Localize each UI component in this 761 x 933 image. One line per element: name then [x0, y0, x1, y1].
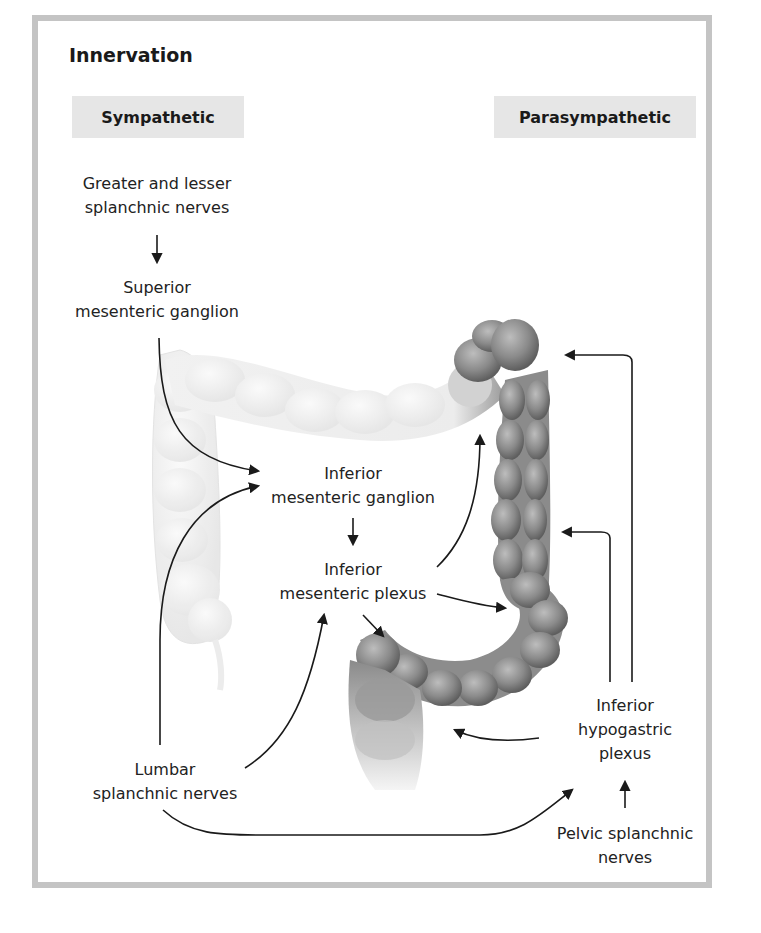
transverse-colon	[165, 355, 505, 441]
label-lumbar-splanchnic: Lumbar splanchnic nerves	[70, 758, 260, 806]
label-superior-mesenteric-ganglion: Superior mesenteric ganglion	[62, 276, 252, 324]
label-inferior-hypogastric-plexus: Inferior hypogastric plexus	[545, 694, 705, 766]
parasympathetic-header: Parasympathetic	[494, 96, 696, 138]
label-greater-lesser-splanchnic: Greater and lesser splanchnic nerves	[62, 172, 252, 220]
descending-colon	[454, 319, 550, 610]
label-inferior-mesenteric-plexus: Inferior mesenteric plexus	[258, 558, 448, 606]
label-inferior-mesenteric-ganglion: Inferior mesenteric ganglion	[258, 462, 448, 510]
figure-title: Innervation	[69, 44, 193, 66]
label-pelvic-splanchnic: Pelvic splanchnic nerves	[535, 822, 715, 870]
sympathetic-header: Sympathetic	[72, 96, 244, 138]
